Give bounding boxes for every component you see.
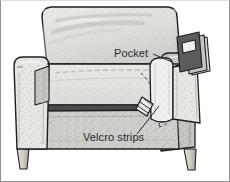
label-velcro-strips: Velcro strips (83, 131, 145, 143)
armchair-illustration: Pocket Velcro strips (1, 1, 229, 181)
figure-frame: Pocket Velcro strips (0, 0, 230, 182)
label-pocket: Pocket (114, 47, 148, 59)
front-left-leg (17, 148, 29, 169)
backrest (42, 7, 181, 64)
front-right-leg (184, 149, 196, 170)
magazine-insert (177, 32, 210, 75)
left-armrest (14, 57, 49, 149)
